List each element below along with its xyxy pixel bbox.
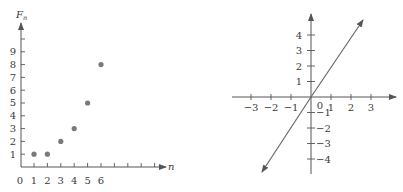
svg-text:−2: −2 bbox=[316, 123, 331, 134]
svg-text:2: 2 bbox=[10, 136, 16, 147]
fibonacci-scatter-chart: 1 2 3 4 5 6 7 8 9 0 1 2 3 4 5 6 Fn n bbox=[10, 9, 175, 186]
svg-text:3: 3 bbox=[296, 45, 302, 56]
svg-text:4: 4 bbox=[10, 110, 16, 121]
svg-text:4: 4 bbox=[71, 175, 77, 186]
figure: 1 2 3 4 5 6 7 8 9 0 1 2 3 4 5 6 Fn n bbox=[0, 0, 403, 192]
svg-text:6: 6 bbox=[10, 85, 16, 96]
svg-text:6: 6 bbox=[98, 175, 104, 186]
svg-text:−1: −1 bbox=[284, 102, 299, 113]
function-line-upper bbox=[311, 20, 363, 97]
point-n5 bbox=[85, 100, 90, 105]
svg-text:−3: −3 bbox=[316, 138, 331, 149]
svg-text:1: 1 bbox=[31, 175, 37, 186]
svg-text:1: 1 bbox=[296, 76, 302, 87]
svg-text:2: 2 bbox=[44, 175, 50, 186]
svg-text:5: 5 bbox=[10, 97, 16, 108]
svg-text:3: 3 bbox=[58, 175, 64, 186]
y-tick-labels: 1 2 3 4 5 6 7 8 9 bbox=[10, 46, 16, 159]
svg-text:8: 8 bbox=[10, 59, 16, 70]
svg-text:−3: −3 bbox=[244, 102, 259, 113]
svg-text:9: 9 bbox=[10, 46, 16, 57]
point-n1 bbox=[31, 152, 36, 157]
x-tick-labels: 0 1 2 3 4 5 6 bbox=[17, 175, 104, 186]
svg-text:−1: −1 bbox=[316, 107, 331, 118]
svg-text:5: 5 bbox=[84, 175, 90, 186]
svg-text:3: 3 bbox=[10, 123, 16, 134]
point-n3 bbox=[58, 139, 63, 144]
point-n6 bbox=[98, 62, 103, 67]
y-axis-label: Fn bbox=[15, 9, 27, 22]
svg-text:−2: −2 bbox=[264, 102, 279, 113]
point-n4 bbox=[72, 126, 77, 131]
svg-text:1: 1 bbox=[10, 149, 16, 160]
y-ticks bbox=[21, 39, 25, 154]
linear-function-chart: −3 −2 −1 0 1 2 3 4 3 2 1 −1 −2 −3 −4 bbox=[232, 14, 396, 174]
x-tick-labels: −3 −2 −1 0 1 2 3 bbox=[244, 100, 375, 113]
svg-text:7: 7 bbox=[10, 72, 16, 83]
svg-text:2: 2 bbox=[348, 102, 354, 113]
data-points bbox=[31, 62, 103, 157]
x-axis-label: n bbox=[168, 161, 174, 172]
x-ticks bbox=[34, 163, 155, 167]
svg-text:3: 3 bbox=[368, 102, 374, 113]
point-n2 bbox=[45, 152, 50, 157]
svg-text:0: 0 bbox=[17, 175, 23, 186]
svg-text:−4: −4 bbox=[316, 154, 331, 165]
svg-text:2: 2 bbox=[296, 61, 302, 72]
svg-text:4: 4 bbox=[296, 30, 302, 41]
